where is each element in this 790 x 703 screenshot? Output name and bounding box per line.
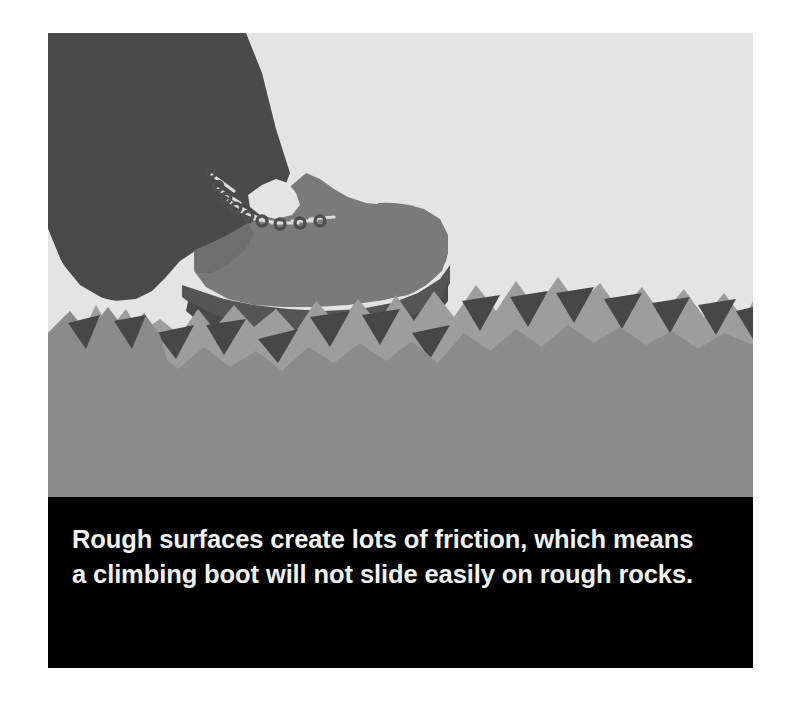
boot-on-rock-illustration — [48, 33, 753, 497]
figure-frame: Rough surfaces create lots of friction, … — [48, 33, 753, 668]
illustration-image — [48, 33, 753, 497]
caption-text: Rough surfaces create lots of friction, … — [72, 522, 712, 592]
caption-bar: Rough surfaces create lots of friction, … — [48, 497, 753, 668]
